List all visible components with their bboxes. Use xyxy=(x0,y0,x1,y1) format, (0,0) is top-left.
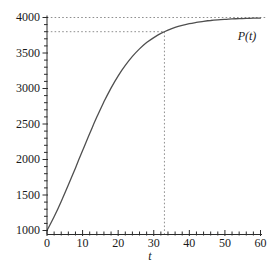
y-tick-label: 2000 xyxy=(16,152,40,166)
curve-label: P(t) xyxy=(238,29,257,44)
x-tick-label: 0 xyxy=(44,236,50,250)
chart-canvas: 0102030405060100015002000250030003500400… xyxy=(0,0,275,276)
x-tick-label: 20 xyxy=(112,236,124,250)
x-tick-label: 60 xyxy=(255,236,267,250)
x-tick-label: 50 xyxy=(219,236,231,250)
y-tick-label: 4000 xyxy=(16,10,40,24)
y-tick-label: 2500 xyxy=(16,117,40,131)
logistic-growth-chart: 0102030405060100015002000250030003500400… xyxy=(0,0,275,276)
y-tick-label: 1000 xyxy=(16,223,40,237)
y-tick-label: 1500 xyxy=(16,188,40,202)
y-tick-label: 3000 xyxy=(16,81,40,95)
population-curve xyxy=(47,18,261,230)
x-axis-label: t xyxy=(148,249,151,264)
y-tick-label: 3500 xyxy=(16,46,40,60)
x-tick-label: 10 xyxy=(77,236,89,250)
x-tick-label: 40 xyxy=(183,236,195,250)
x-tick-label: 30 xyxy=(148,236,160,250)
